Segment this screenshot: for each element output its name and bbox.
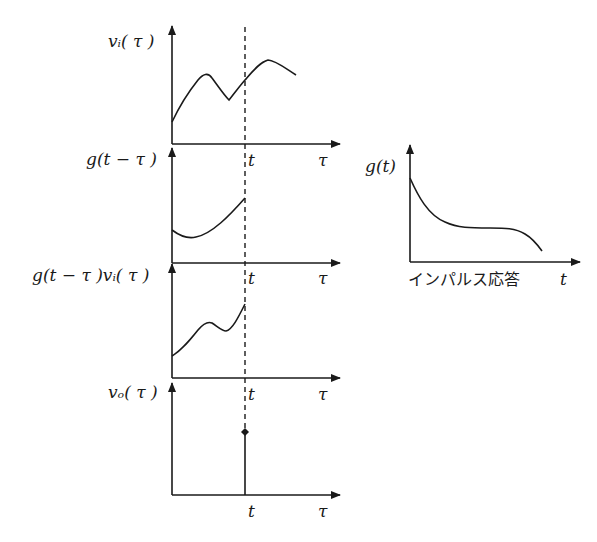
product-curve [172, 304, 245, 356]
y-axis-label: g(t − τ ) [86, 149, 157, 169]
x-axis-label: τ [318, 150, 328, 170]
t-tick-label: t [248, 150, 255, 170]
caption-impulse-response: インパルス応答 [408, 270, 520, 289]
y-axis-label: vᵢ( τ ) [108, 31, 155, 51]
output-value-dot [241, 428, 249, 436]
convolution-diagram: vᵢ( τ ) t τ g(t − τ ) t τ g(t − τ )vᵢ( τ… [0, 0, 597, 542]
flipped-response-curve [172, 198, 245, 238]
y-axis-label: g(t − τ )vᵢ( τ ) [32, 265, 149, 285]
panel-product: g(t − τ )vᵢ( τ ) t τ [32, 264, 340, 404]
t-tick-label: t [248, 384, 255, 404]
t-tick-label: t [248, 268, 255, 288]
x-axis-label: τ [318, 268, 328, 288]
x-axis-label: τ [318, 501, 328, 521]
y-axis-label: g(t) [365, 156, 396, 176]
impulse-response-graph: g(t) インパルス応答 t [365, 145, 580, 289]
x-axis-label: τ [318, 384, 328, 404]
x-axis-label: t [560, 269, 567, 289]
t-tick-label: t [248, 501, 255, 521]
panel-output: vₒ( τ ) t τ [108, 382, 340, 521]
impulse-response-curve [410, 178, 542, 251]
y-axis-label: vₒ( τ ) [108, 382, 158, 402]
input-signal-curve [172, 60, 296, 122]
